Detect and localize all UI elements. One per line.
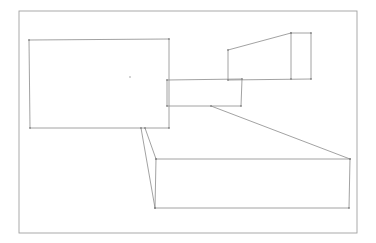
- left-connector-a: [141, 128, 155, 208]
- vertex-mark: [227, 49, 229, 51]
- vertex-mark: [310, 78, 312, 80]
- vertex-mark: [290, 32, 292, 34]
- vertex-mark: [348, 207, 350, 209]
- vertex-mark: [144, 127, 146, 129]
- vertex-mark: [168, 38, 170, 40]
- vertex-mark: [28, 39, 30, 41]
- sketch-canvas: [0, 0, 376, 243]
- vertex-mark: [140, 127, 142, 129]
- vertex-mark: [210, 105, 212, 107]
- vertex-mark: [166, 79, 168, 81]
- bottom-box: [155, 159, 350, 208]
- vertex-mark: [349, 158, 351, 160]
- vertex-mark: [240, 105, 242, 107]
- center-mark: [129, 76, 130, 77]
- vertex-mark: [290, 78, 292, 80]
- left-connector-b: [145, 128, 156, 159]
- middle-box: [167, 79, 242, 106]
- main-box: [29, 39, 169, 128]
- vertex-mark: [154, 207, 156, 209]
- vertex-mark: [227, 79, 229, 81]
- vertex-mark: [241, 78, 243, 80]
- vertex-mark: [155, 158, 157, 160]
- outer-frame: [19, 11, 357, 233]
- vertex-mark: [29, 127, 31, 129]
- vertex-mark: [168, 127, 170, 129]
- diagonal-connector: [211, 106, 350, 159]
- upper-right-block: [228, 33, 311, 80]
- vertex-mark: [310, 32, 312, 34]
- sketch-diagram: [0, 0, 376, 243]
- vertex-mark: [166, 105, 168, 107]
